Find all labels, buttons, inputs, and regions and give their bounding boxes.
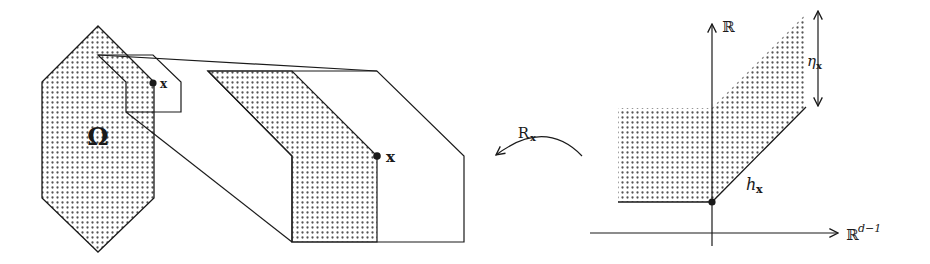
curved-arrow-icon — [496, 137, 582, 156]
diagram-canvas: Ω x x R x ℝ ℝ d−1 η x h x — [0, 0, 930, 264]
point-x-large-label: x — [386, 148, 396, 166]
right-panel: ℝ ℝ d−1 η x h x — [590, 11, 881, 246]
map-label-subscript: x — [530, 132, 537, 143]
left-panel: Ω x x — [42, 26, 464, 252]
enlarged-domain-region — [208, 71, 377, 242]
origin-point — [708, 198, 715, 205]
map-label: R — [518, 124, 530, 142]
eta-label: η — [807, 52, 816, 70]
point-x-small — [149, 79, 156, 86]
h-label-subscript: x — [756, 183, 763, 196]
h-label: h — [746, 175, 756, 194]
eta-label-subscript: x — [816, 60, 823, 71]
x-axis-label-superscript: d−1 — [858, 222, 881, 235]
map-arrow: R x — [496, 124, 582, 156]
point-x-small-label: x — [160, 77, 168, 91]
y-axis-label: ℝ — [722, 18, 735, 36]
point-x-large — [373, 152, 381, 160]
omega-label: Ω — [87, 122, 108, 151]
